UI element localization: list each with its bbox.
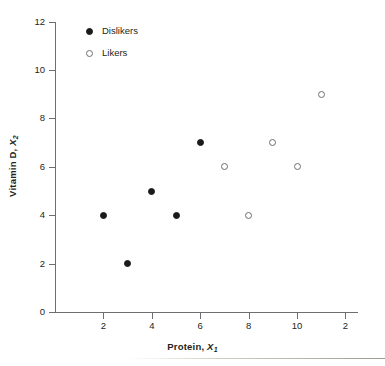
x-tick-mark: [103, 313, 104, 319]
x-axis-title-text: Protein,: [167, 341, 204, 352]
data-point-likers: [245, 212, 252, 219]
data-point-dislikers: [197, 139, 204, 146]
chart-legend: Dislikers Likers: [86, 20, 206, 64]
y-tick-mark: [49, 312, 55, 313]
data-point-likers: [294, 163, 301, 170]
y-axis-title-var: X: [7, 139, 18, 146]
x-tick-label: 6: [187, 321, 213, 331]
bottom-divider: [128, 358, 385, 359]
y-tick-label: 6: [15, 162, 45, 172]
y-axis-title: Vitamin D, X2: [7, 106, 19, 226]
x-tick-mark: [249, 313, 250, 319]
x-tick-label: 4: [139, 321, 165, 331]
data-point-likers: [318, 91, 325, 98]
data-point-dislikers: [124, 260, 131, 267]
filled-circle-icon: [86, 28, 93, 35]
x-axis-title: Protein, X1: [0, 341, 385, 353]
scatter-plot-figure: 024681012 2468102 Dislikers Likers Prote…: [0, 0, 385, 366]
data-point-dislikers: [100, 212, 107, 219]
x-tick-label: 2: [90, 321, 116, 331]
x-tick-mark: [152, 313, 153, 319]
y-tick-label: 10: [15, 65, 45, 75]
x-tick-mark: [345, 313, 346, 319]
y-tick-label: 8: [15, 113, 45, 123]
legend-label-likers: Likers: [102, 47, 127, 58]
y-tick-label: 2: [15, 259, 45, 269]
x-tick-label: 8: [236, 321, 262, 331]
x-tick-mark: [297, 313, 298, 319]
x-axis-line: [55, 312, 358, 313]
x-tick-label: 10: [284, 321, 310, 331]
legend-item-likers[interactable]: Likers: [86, 42, 206, 64]
x-tick-label: 2: [332, 321, 358, 331]
legend-item-dislikers[interactable]: Dislikers: [86, 20, 206, 42]
x-axis-title-sub: 1: [214, 346, 218, 353]
x-tick-mark: [200, 313, 201, 319]
plot-area: [55, 22, 357, 312]
legend-label-dislikers: Dislikers: [102, 25, 138, 36]
data-point-likers: [221, 163, 228, 170]
y-tick-label: 12: [15, 17, 45, 27]
y-axis-title-sub: 2: [12, 135, 19, 139]
open-circle-icon: [86, 50, 93, 57]
y-tick-label: 0: [15, 307, 45, 317]
y-tick-label: 4: [15, 210, 45, 220]
y-axis-title-text: Vitamin D,: [7, 149, 18, 197]
data-point-dislikers: [148, 188, 155, 195]
data-point-likers: [269, 139, 276, 146]
data-point-dislikers: [173, 212, 180, 219]
